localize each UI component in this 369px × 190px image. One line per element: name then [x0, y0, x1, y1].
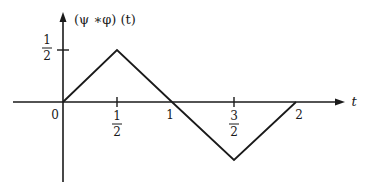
y-tick-label-half-num: 1	[43, 33, 51, 47]
x-tick-label-zero: 0	[51, 108, 59, 122]
y-axis-arrow-icon	[60, 12, 67, 22]
x-axis-arrow-icon	[335, 99, 345, 106]
x-tick-label-three-half-den: 2	[230, 125, 238, 139]
y-tick-label-half-den: 2	[43, 49, 51, 63]
x-tick-label-two: 2	[295, 108, 303, 122]
x-tick-label-half-den: 2	[113, 125, 121, 139]
convolution-plot: (ψ ∗φ) (t) 1 2 0 1 2 1 3 2 2 t	[0, 0, 369, 190]
function-curve	[63, 50, 296, 160]
x-tick-label-half-num: 1	[113, 109, 121, 123]
y-axis-title: (ψ ∗φ) (t)	[74, 12, 136, 27]
x-tick-label-three-half-num: 3	[230, 109, 238, 123]
x-axis-title: t	[351, 94, 357, 109]
x-tick-label-one: 1	[166, 108, 174, 122]
